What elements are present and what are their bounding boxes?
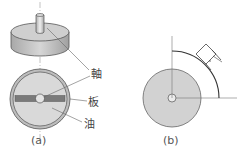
- label-shaft: 軸: [91, 67, 102, 81]
- pointer-device: [196, 44, 222, 70]
- caption-b: (b): [163, 134, 179, 147]
- cylinder-container: [11, 14, 69, 56]
- top-view-disc: [10, 69, 70, 129]
- leader-plate: [70, 99, 87, 101]
- caption-a: (a): [31, 134, 46, 147]
- diagram-canvas: 軸 板 油 (a) (b): [0, 0, 242, 157]
- label-oil: 油: [84, 117, 95, 131]
- label-plate: 板: [88, 95, 99, 109]
- figure-a: 軸 板 油 (a): [10, 2, 102, 147]
- shaft: [36, 15, 44, 33]
- hub: [36, 94, 45, 103]
- figure-b: (b): [143, 36, 237, 147]
